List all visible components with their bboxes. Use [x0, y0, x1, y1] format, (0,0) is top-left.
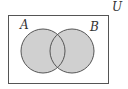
set-union-shading: [21, 29, 94, 73]
universe-label: U: [112, 0, 123, 14]
venn-diagram: A B U: [0, 0, 128, 89]
set-b-label: B: [89, 20, 99, 34]
set-a-label: A: [19, 18, 29, 32]
